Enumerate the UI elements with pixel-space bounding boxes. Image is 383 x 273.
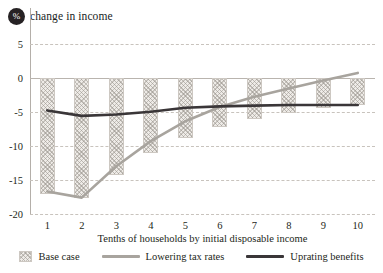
x-axis-tick-label: 8: [286, 220, 291, 231]
y-axis-tick-label: 5: [18, 38, 23, 49]
x-axis-title: Tenths of households by initial disposab…: [30, 233, 375, 244]
plot-inner: 50-5-10-15-20 12345678910: [30, 30, 375, 214]
bar: [109, 78, 124, 175]
legend-item[interactable]: Lowering tax rates: [102, 251, 225, 262]
chart-title-text: change in income: [30, 10, 113, 22]
y-axis-tick-label: -10: [9, 140, 23, 151]
legend-label: Uprating benefits: [290, 251, 363, 262]
legend-label: Base case: [38, 251, 79, 262]
x-axis-tick-label: 7: [252, 220, 257, 231]
y-axis-tick-label: -15: [9, 174, 23, 185]
bar: [40, 78, 55, 194]
x-axis-tick-label: 10: [353, 220, 364, 231]
bar: [247, 78, 262, 119]
percent-badge-icon: %: [8, 8, 25, 25]
legend-item[interactable]: Uprating benefits: [246, 251, 363, 262]
x-axis-tick-label: 1: [45, 220, 50, 231]
gridline: [30, 214, 375, 215]
line-lowering-tax-rates: [47, 73, 358, 198]
legend-line-swatch: [102, 255, 140, 258]
legend-hatched-swatch: [19, 251, 32, 262]
bar: [281, 78, 296, 113]
y-axis-tick-label: 0: [18, 72, 23, 83]
bar: [74, 78, 89, 199]
bar: [316, 78, 331, 109]
gridline: [30, 44, 375, 45]
chart-title: % change in income: [8, 7, 113, 25]
plot-area: 50-5-10-15-20 12345678910: [30, 30, 375, 214]
x-axis-tick-label: 4: [148, 220, 153, 231]
legend-item[interactable]: Base case: [19, 251, 79, 262]
line-uprating-benefits: [47, 105, 358, 116]
x-axis-tick-label: 3: [114, 220, 119, 231]
legend-label: Lowering tax rates: [146, 251, 225, 262]
bar: [350, 78, 365, 105]
y-axis-tick-label: -5: [14, 106, 23, 117]
x-axis-tick-label: 9: [321, 220, 326, 231]
legend-line-swatch: [246, 255, 284, 258]
bar: [212, 78, 227, 127]
x-axis-tick-label: 5: [183, 220, 188, 231]
y-axis-tick-label: -20: [9, 209, 23, 220]
chart-legend: Base caseLowering tax ratesUprating bene…: [0, 251, 383, 262]
x-axis-tick-label: 6: [217, 220, 222, 231]
chart-figure: % change in income 50-5-10-15-20 1234567…: [0, 0, 383, 273]
bar: [178, 78, 193, 139]
bar: [143, 78, 158, 153]
x-axis-tick-label: 2: [79, 220, 84, 231]
